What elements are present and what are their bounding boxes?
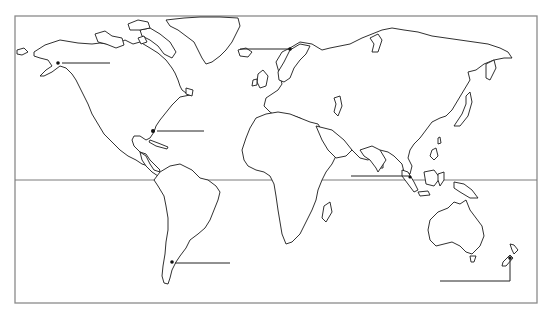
cuba [149, 140, 168, 149]
location-marker [170, 260, 174, 264]
new-zealand-south [502, 255, 513, 266]
kamchatka [486, 60, 496, 80]
label-blank-florida[interactable] [151, 129, 204, 133]
label-blank-new-zealand[interactable] [440, 256, 512, 281]
location-marker [151, 129, 155, 133]
newfoundland [186, 88, 193, 96]
location-marker [408, 175, 411, 178]
north-america [34, 40, 190, 174]
label-blank-argentina[interactable] [170, 260, 230, 264]
australia [428, 200, 484, 254]
chukotka-west [17, 48, 28, 55]
philippines [430, 148, 438, 160]
ireland [252, 79, 257, 86]
location-marker [288, 47, 292, 51]
south-america [154, 164, 220, 284]
madagascar [322, 202, 332, 222]
arctic-island-2 [128, 20, 150, 30]
taiwan [438, 137, 441, 144]
label-leader-line [440, 258, 510, 281]
location-marker [56, 61, 60, 65]
world-outline-map [0, 0, 546, 311]
sulawesi [438, 172, 444, 186]
java [418, 191, 430, 196]
new-zealand-north [510, 244, 518, 254]
great-britain [257, 70, 268, 88]
tasmania [470, 256, 476, 262]
greenland [166, 17, 240, 64]
new-guinea [454, 182, 478, 198]
